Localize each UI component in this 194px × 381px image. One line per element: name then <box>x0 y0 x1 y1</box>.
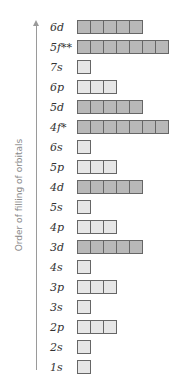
orbital-box <box>77 160 91 174</box>
orbital-label: 5s <box>50 201 77 214</box>
orbital-box <box>130 180 143 194</box>
orbital-box <box>117 180 130 194</box>
orbital-label: 6s <box>50 141 77 154</box>
orbital-label: 6d <box>50 21 77 34</box>
orbital-box <box>117 240 130 254</box>
orbital-box <box>77 60 91 74</box>
orbital-box <box>91 100 104 114</box>
orbital-box <box>77 80 91 94</box>
orbital-row: 5p <box>50 160 117 174</box>
orbital-row: 3s <box>50 300 91 314</box>
orbital-box <box>130 100 143 114</box>
orbital-box <box>91 20 104 34</box>
orbital-box <box>117 120 130 134</box>
orbital-label: 5d <box>50 101 77 114</box>
orbital-row: 6s <box>50 140 91 154</box>
orbital-box <box>143 120 156 134</box>
orbital-row: 5f** <box>50 40 169 54</box>
orbital-label: 4d <box>50 181 77 194</box>
orbital-boxes <box>77 220 117 234</box>
orbital-row: 3p <box>50 280 117 294</box>
orbital-label: 6p <box>50 81 77 94</box>
orbital-box <box>91 320 104 334</box>
orbital-row: 4f* <box>50 120 169 134</box>
orbital-box <box>77 280 91 294</box>
orbital-boxes <box>77 120 169 134</box>
orbital-label: 5f** <box>50 41 77 54</box>
orbital-box <box>104 220 117 234</box>
orbital-box <box>91 40 104 54</box>
orbital-boxes <box>77 240 143 254</box>
orbital-box <box>91 160 104 174</box>
orbital-boxes <box>77 260 91 274</box>
orbital-boxes <box>77 360 91 374</box>
orbital-label: 4p <box>50 221 77 234</box>
orbital-row: 4p <box>50 220 117 234</box>
orbital-row: 2p <box>50 320 117 334</box>
orbital-row: 5d <box>50 100 143 114</box>
orbital-label: 3p <box>50 281 77 294</box>
orbital-boxes <box>77 300 91 314</box>
orbital-box <box>77 120 91 134</box>
orbital-box <box>143 40 156 54</box>
orbital-box <box>104 280 117 294</box>
orbital-row: 5s <box>50 200 91 214</box>
orbital-box <box>117 100 130 114</box>
orbital-boxes <box>77 280 117 294</box>
orbital-box <box>77 180 91 194</box>
orbital-box <box>130 240 143 254</box>
orbital-label: 4f* <box>50 121 77 134</box>
orbital-box <box>77 300 91 314</box>
orbital-box <box>77 100 91 114</box>
orbital-box <box>104 100 117 114</box>
orbital-box <box>91 240 104 254</box>
orbital-boxes <box>77 60 91 74</box>
axis-line <box>36 24 37 370</box>
orbital-row: 2s <box>50 340 91 354</box>
orbital-box <box>104 20 117 34</box>
orbital-box <box>104 80 117 94</box>
orbital-box <box>91 180 104 194</box>
orbital-boxes <box>77 160 117 174</box>
orbital-boxes <box>77 320 117 334</box>
orbital-boxes <box>77 100 143 114</box>
orbital-row: 1s <box>50 360 91 374</box>
orbital-boxes <box>77 340 91 354</box>
orbital-box <box>104 180 117 194</box>
orbital-label: 2s <box>50 341 77 354</box>
orbital-row: 7s <box>50 60 91 74</box>
orbital-box <box>77 140 91 154</box>
orbital-label: 2p <box>50 321 77 334</box>
orbital-row: 4d <box>50 180 143 194</box>
orbital-boxes <box>77 20 143 34</box>
orbital-row: 6d <box>50 20 143 34</box>
orbital-boxes <box>77 80 117 94</box>
orbital-box <box>104 40 117 54</box>
orbital-box <box>130 20 143 34</box>
orbital-label: 5p <box>50 161 77 174</box>
orbital-boxes <box>77 180 143 194</box>
orbital-box <box>104 120 117 134</box>
orbital-box <box>156 40 169 54</box>
orbital-box <box>77 320 91 334</box>
axis-label: Order of filling of orbitals <box>14 139 24 252</box>
orbital-box <box>117 20 130 34</box>
orbital-boxes <box>77 40 169 54</box>
orbital-box <box>91 120 104 134</box>
orbital-box <box>77 340 91 354</box>
orbital-box <box>104 160 117 174</box>
orbital-box <box>91 80 104 94</box>
orbital-label: 1s <box>50 361 77 374</box>
orbital-label: 3s <box>50 301 77 314</box>
orbital-box <box>156 120 169 134</box>
orbital-row: 4s <box>50 260 91 274</box>
orbital-row: 3d <box>50 240 143 254</box>
orbital-box <box>77 260 91 274</box>
orbital-label: 4s <box>50 261 77 274</box>
orbital-box <box>117 40 130 54</box>
orbital-box <box>104 240 117 254</box>
orbital-box <box>77 220 91 234</box>
orbital-label: 3d <box>50 241 77 254</box>
orbital-box <box>77 20 91 34</box>
orbital-box <box>104 320 117 334</box>
